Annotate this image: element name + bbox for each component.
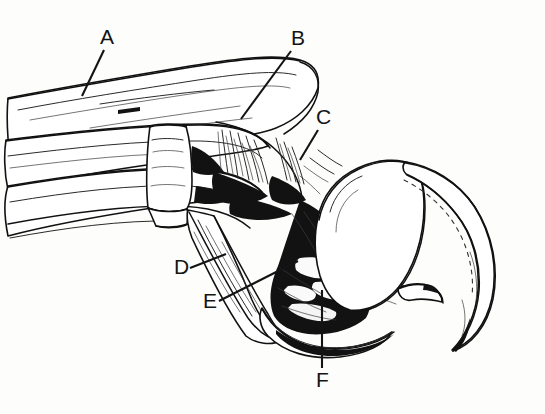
anatomical-illustration: A B C D E F xyxy=(0,0,545,414)
label-B: B xyxy=(291,26,305,49)
label-F: F xyxy=(316,368,329,391)
label-A: A xyxy=(100,25,114,48)
metatarsal-block xyxy=(147,124,192,228)
label-C: C xyxy=(316,105,331,128)
label-D: D xyxy=(174,255,189,278)
label-E: E xyxy=(203,289,217,312)
figure-container: A B C D E F xyxy=(0,0,545,414)
